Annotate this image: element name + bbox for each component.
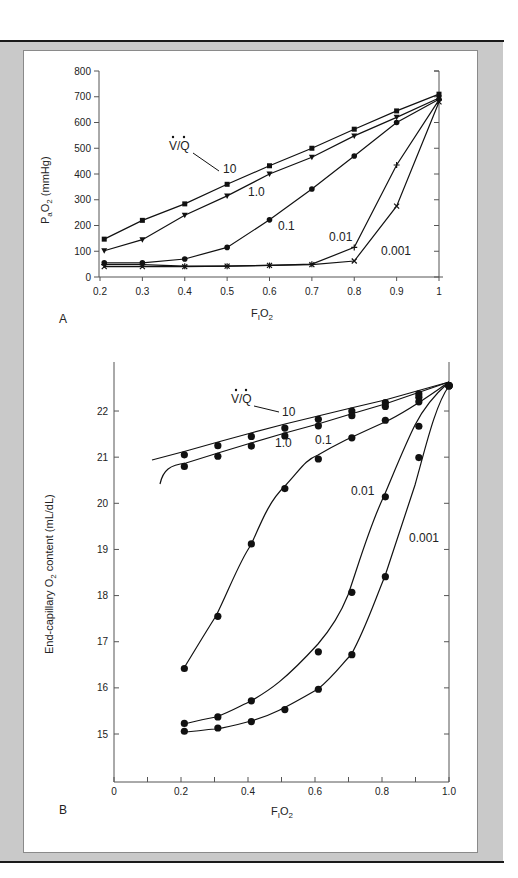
data-point-marker: [214, 724, 221, 731]
chart-b-panel-letter: B: [59, 803, 67, 817]
data-point-marker: [267, 217, 273, 223]
data-point-marker: [351, 133, 357, 139]
chart-b-label-0001: 0.001: [409, 531, 439, 545]
x-tick-label: 0: [111, 786, 117, 797]
y-tick-label: 200: [74, 220, 91, 231]
chart-a-line-1.0: [104, 98, 439, 251]
chart-a-legend: V/Q: [169, 136, 219, 171]
x-tick-label: 1: [436, 286, 442, 297]
data-point-marker: [248, 433, 255, 440]
dot-icon: [183, 136, 185, 138]
data-point-marker: [267, 172, 273, 178]
y-tick-label: 700: [74, 91, 91, 102]
chart-b-curve-1: [160, 382, 449, 484]
data-point-marker: [309, 146, 314, 151]
y-tick-label: 20: [97, 498, 109, 509]
y-tick-label: 300: [74, 194, 91, 205]
chart-a-line-0.01: [104, 100, 439, 266]
data-point-marker: [348, 412, 355, 419]
data-point-marker: [315, 686, 322, 693]
data-point-marker: [315, 455, 322, 462]
data-point-marker: [101, 248, 107, 254]
data-point-marker: [445, 382, 452, 389]
data-point-marker: [248, 718, 255, 725]
data-point-marker: [248, 442, 255, 449]
y-tick-label: 600: [74, 117, 91, 128]
dot-icon: [172, 136, 174, 138]
dot-icon: [245, 389, 247, 391]
data-point-marker: [394, 108, 399, 113]
chart-b-curves: [152, 382, 449, 732]
chart-b-label-10: 10: [282, 405, 296, 419]
chart-a-panel-letter: A: [59, 312, 67, 326]
chart-a-y-axis-title: PaO2 (mmHg): [39, 156, 54, 224]
x-tick-label: 0.4: [178, 286, 192, 297]
chart-a-label-01: 0.1: [278, 219, 295, 233]
data-point-marker: [248, 540, 255, 547]
y-tick-label: 15: [97, 729, 109, 740]
data-point-marker: [352, 127, 357, 132]
data-point-marker: [394, 115, 400, 121]
data-point-marker: [309, 186, 315, 192]
chart-a-x-axis-title: FIO2: [251, 307, 274, 322]
chart-a-x-ticks: [100, 277, 439, 281]
data-point-marker: [348, 589, 355, 596]
y-tick-label: 17: [97, 636, 109, 647]
chart-b-label-1: 1.0: [275, 436, 292, 450]
data-point-marker: [214, 442, 221, 449]
y-tick-label: 800: [74, 66, 91, 77]
data-point-marker: [281, 485, 288, 492]
data-point-marker: [214, 613, 221, 620]
data-point-marker: [181, 665, 188, 672]
chart-b-label-01: 0.1: [315, 433, 332, 447]
data-point-marker: [281, 706, 288, 713]
chart-b-legend: V/Q: [231, 389, 279, 412]
data-point-marker: [224, 245, 230, 251]
data-point-marker: [415, 454, 422, 461]
data-point-marker: [182, 256, 188, 262]
data-point-marker: [415, 398, 422, 405]
y-tick-label: 500: [74, 143, 91, 154]
chart-b-label-001: 0.01: [351, 484, 375, 498]
y-tick-label: 100: [74, 246, 91, 257]
x-tick-label: 0.3: [135, 286, 149, 297]
y-tick-label: 18: [97, 590, 109, 601]
data-point-marker: [225, 182, 230, 187]
data-point-marker: [182, 201, 187, 206]
y-tick-label: 16: [97, 682, 109, 693]
data-point-marker: [214, 713, 221, 720]
data-point-marker: [214, 453, 221, 460]
chart-a-label-10: 10: [223, 162, 237, 176]
x-tick-label: 1.0: [442, 786, 456, 797]
chart-a-line-0.001: [104, 102, 439, 267]
chart-a-x-tick-labels: 0.20.30.40.50.60.70.80.91: [93, 286, 442, 297]
chart-b-y-axis-title: End-capillary O2 content (mL/dL): [43, 494, 58, 654]
chart-a-legend-leader: [193, 153, 219, 171]
x-tick-label: 0.2: [93, 286, 107, 297]
chart-a-label-1: 1.0: [248, 185, 265, 199]
chart-b-x-axis-title: FIO2: [271, 805, 294, 820]
data-point-marker: [182, 213, 188, 219]
data-point-marker: [351, 244, 357, 250]
chart-a-label-0001: 0.001: [381, 244, 411, 258]
data-point-marker: [224, 193, 230, 199]
data-point-marker: [102, 237, 107, 242]
data-point-marker: [181, 463, 188, 470]
x-tick-label: 0.6: [263, 286, 277, 297]
dot-icon: [235, 389, 237, 391]
data-point-marker: [181, 728, 188, 735]
data-point-marker: [181, 720, 188, 727]
data-point-marker: [394, 204, 399, 209]
x-tick-label: 0.8: [375, 786, 389, 797]
chart-a-series: [101, 92, 442, 270]
chart-a-legend-title: V/Q: [169, 139, 190, 153]
x-tick-label: 0.7: [305, 286, 319, 297]
data-point-marker: [382, 493, 389, 500]
data-point-marker: [267, 163, 272, 168]
data-point-marker: [415, 423, 422, 430]
data-point-marker: [315, 422, 322, 429]
data-point-marker: [140, 218, 145, 223]
chart-b-y-ticks: [114, 411, 449, 734]
chart-b-legend-leader: [254, 406, 279, 412]
x-tick-label: 0.5: [220, 286, 234, 297]
